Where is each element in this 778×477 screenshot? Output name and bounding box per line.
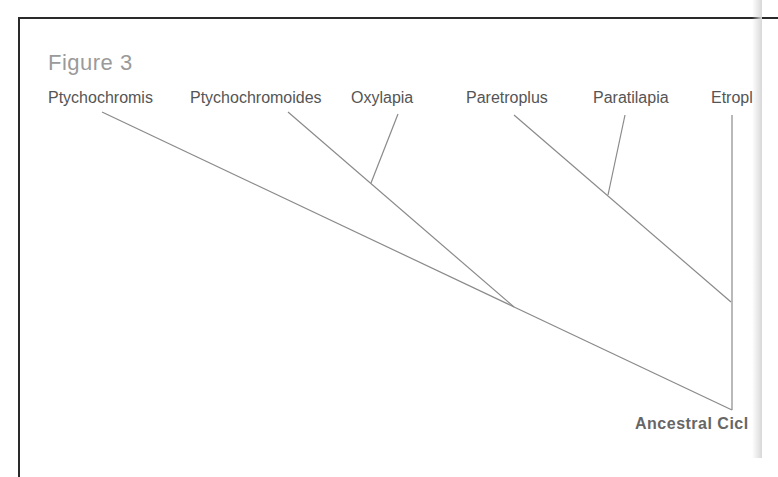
root-label-ancestral: Ancestral Cicl	[635, 415, 749, 433]
branch-paretroplus	[514, 115, 731, 302]
branch-ptychochromoides	[288, 112, 514, 307]
page-edge-shadow	[752, 0, 762, 458]
branch-ptychochromis	[102, 112, 732, 410]
branch-oxylapia	[371, 114, 398, 183]
branch-paratilapia	[608, 115, 625, 195]
